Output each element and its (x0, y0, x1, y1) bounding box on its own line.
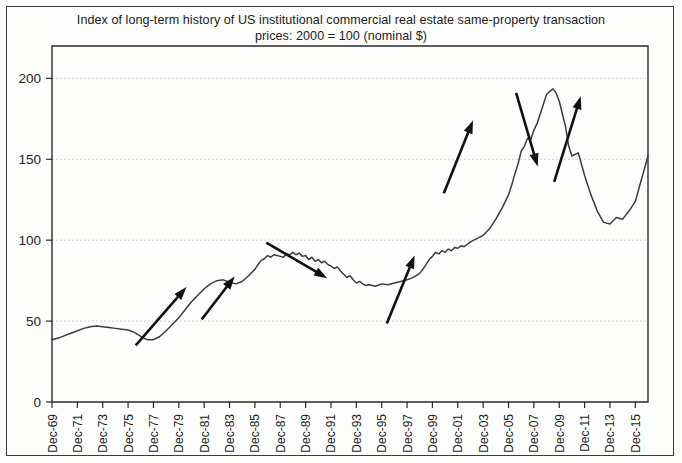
x-tick-label: Dec-93 (350, 414, 364, 453)
x-tick-label: Dec-89 (299, 414, 313, 453)
chart-figure: Index of long-term history of US institu… (0, 0, 682, 463)
arrow-shaft (516, 93, 535, 157)
x-tick-label: Dec-73 (96, 414, 110, 453)
y-tick-label: 150 (18, 152, 41, 167)
x-tick-label: Dec-99 (426, 414, 440, 453)
arrow-head (405, 256, 414, 270)
x-tick-label: Dec-95 (375, 414, 389, 453)
arrow-head (530, 153, 539, 167)
x-tick-label: Dec-13 (603, 414, 617, 453)
x-tick-label: Dec-79 (172, 414, 186, 453)
gridlines (52, 78, 648, 321)
arrow-shaft (202, 285, 229, 320)
x-tick-label: Dec-07 (527, 414, 541, 453)
y-tick-label: 100 (18, 233, 41, 248)
x-tick-label: Dec-81 (198, 414, 212, 453)
x-tick-label: Dec-03 (477, 414, 491, 453)
x-tick-label: Dec-83 (223, 414, 237, 453)
x-tick-label: Dec-15 (629, 414, 643, 453)
x-tick-label: Dec-09 (553, 414, 567, 453)
arrow-up-trend-1997-2000 (387, 256, 415, 324)
x-axis-labels: Dec-69Dec-71Dec-73Dec-75Dec-77Dec-79Dec-… (46, 414, 643, 453)
x-tick-label: Dec-91 (324, 414, 338, 453)
x-tick-label: Dec-69 (46, 414, 60, 453)
arrow-up-trend-1983-1986 (202, 277, 235, 320)
arrow-up-trend-2002-2007 (444, 120, 473, 193)
y-tick-label: 200 (18, 71, 41, 86)
x-tick-label: Dec-75 (122, 414, 136, 453)
y-tick-marks (46, 78, 52, 402)
y-tick-label: 50 (26, 314, 41, 329)
x-tick-label: Dec-71 (71, 414, 85, 453)
x-tick-label: Dec-11 (578, 414, 592, 452)
x-tick-label: Dec-01 (451, 414, 465, 453)
arrow-shaft (444, 130, 469, 194)
arrow-head (314, 268, 328, 279)
x-tick-label: Dec-05 (502, 414, 516, 453)
x-tick-label: Dec-77 (147, 414, 161, 453)
y-axis-labels: 050100150200 (18, 71, 41, 410)
arrow-shaft (387, 265, 411, 324)
arrow-up-trend-1977-1980 (136, 287, 187, 345)
arrow-up-trend-2010-2015 (554, 96, 581, 182)
data-series (52, 89, 648, 340)
plot-area: 050100150200 Dec-69Dec-71Dec-73Dec-75Dec… (0, 0, 682, 463)
x-tick-label: Dec-87 (274, 414, 288, 453)
x-tick-label: Dec-97 (401, 414, 415, 453)
arrow-shaft (554, 106, 578, 182)
y-tick-label: 0 (33, 395, 41, 410)
series-line (52, 89, 648, 340)
arrow-head (464, 120, 473, 134)
x-tick-marks (52, 402, 635, 408)
arrow-head (573, 96, 582, 110)
x-tick-label: Dec-85 (248, 414, 262, 453)
trend-arrows (136, 93, 582, 345)
